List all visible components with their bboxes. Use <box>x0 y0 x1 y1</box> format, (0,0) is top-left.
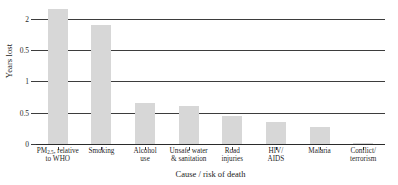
bar-slot <box>123 3 167 144</box>
bar <box>353 143 373 144</box>
bar <box>48 9 68 144</box>
bar <box>222 116 242 144</box>
x-axis-category-labels: PM2.5, relativeto WHOSmokingAlcoholuseUn… <box>36 147 385 169</box>
bar <box>91 25 111 144</box>
y-axis-title: Years lost <box>4 26 14 96</box>
bar-chart: Years lost 20.510.50 PM2.5, relativeto W… <box>0 0 398 185</box>
axis-baseline <box>36 144 385 145</box>
bar-slot <box>341 3 385 144</box>
y-axis-tick-label: 0.5 <box>20 46 29 55</box>
bar <box>310 127 330 144</box>
y-axis-tick-label: 2 <box>25 14 29 23</box>
bar-slot <box>36 3 80 144</box>
y-axis-tick <box>31 144 36 145</box>
bar-series <box>36 3 385 144</box>
y-axis-tick-label: 1 <box>25 77 29 86</box>
y-axis-tick-label: 0.5 <box>20 108 29 117</box>
x-axis-title: Cause / risk of death <box>36 169 385 179</box>
x-axis-category-label: Conflict/terrorism <box>332 147 395 164</box>
plot-area: 20.510.50 <box>36 3 385 144</box>
bar <box>135 103 155 144</box>
bar-slot <box>254 3 298 144</box>
bar <box>266 122 286 144</box>
bar-slot <box>80 3 124 144</box>
bar <box>179 106 199 144</box>
bar-slot <box>211 3 255 144</box>
bar-slot <box>167 3 211 144</box>
bar-slot <box>298 3 342 144</box>
